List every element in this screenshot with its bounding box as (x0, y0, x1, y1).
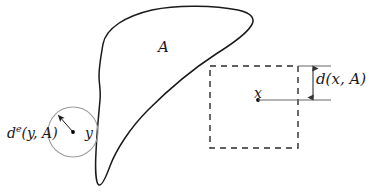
set-a-outline (96, 6, 253, 185)
excess-distance-args: (y, A) (22, 125, 58, 141)
distance-x-to-a-label: d(x, A) (316, 72, 366, 87)
excess-distance-base: d (7, 125, 16, 141)
excess-radius-arrow (59, 116, 74, 133)
set-a-label: A (158, 40, 169, 55)
point-y-label: y (85, 126, 93, 140)
dashed-square-region (210, 66, 298, 148)
figure-canvas: A x y d(x, A) de(y, A) (0, 0, 387, 192)
point-y-dot (71, 130, 75, 134)
diagram-svg (0, 0, 387, 192)
point-x-label: x (254, 86, 262, 100)
excess-distance-y-to-a-label: de(y, A) (7, 124, 58, 140)
